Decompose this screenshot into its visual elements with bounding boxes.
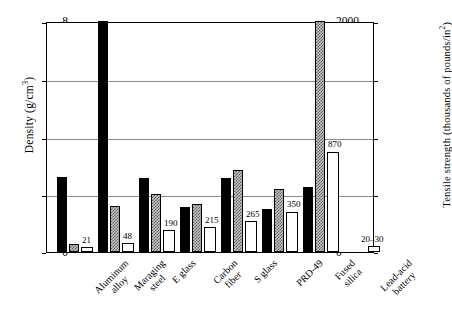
bar-group-carbon-fiber: 215 bbox=[178, 23, 219, 252]
tickmark-left-2 bbox=[42, 196, 46, 197]
bar-group-lead-acid-battery: 20–30 bbox=[342, 23, 383, 252]
left-axis-title: Density (g/cm3) bbox=[21, 35, 35, 195]
bar-density-black-e-glass bbox=[139, 178, 149, 252]
bar-value-label-lead-acid-battery: 20–30 bbox=[361, 235, 384, 244]
bar-tensile-white-prd-49 bbox=[286, 212, 298, 252]
right-axis-title-text: Tensile strength (thousands of pounds/in bbox=[441, 30, 452, 208]
bar-density-black-maraging-steel bbox=[98, 21, 108, 252]
right-axis-title: Tensile strength (thousands of pounds/in… bbox=[438, 0, 452, 240]
bar-tensile-white-carbon-fiber bbox=[204, 227, 216, 252]
x-label-prd-49: PRD-49 bbox=[295, 258, 326, 289]
bar-density-hatched-fused-silica bbox=[315, 21, 325, 252]
x-label-line1: E glass bbox=[170, 258, 198, 286]
left-axis-title-text: Density (g/cm bbox=[23, 85, 35, 153]
bar-tensile-white-e-glass bbox=[163, 230, 175, 252]
bar-group-prd-49: 350 bbox=[260, 23, 301, 252]
x-label-e-glass: E glass bbox=[170, 258, 198, 286]
bar-density-hatched-maraging-steel bbox=[110, 206, 120, 252]
bar-group-e-glass: 190 bbox=[137, 23, 178, 252]
x-label-lead-acid-battery: Lead-acid battery bbox=[379, 258, 422, 301]
tickmark-left-4 bbox=[42, 139, 46, 140]
bar-value-label-maraging-steel: 48 bbox=[123, 232, 132, 241]
bar-tensile-white-s-glass bbox=[245, 221, 257, 252]
bar-density-black-carbon-fiber bbox=[180, 207, 190, 252]
bar-density-hatched-carbon-fiber bbox=[192, 204, 202, 252]
tickmark-left-0 bbox=[42, 253, 46, 254]
bar-tensile-white-lead-acid-battery bbox=[368, 246, 380, 252]
tickmark-left-6 bbox=[42, 81, 46, 82]
x-label-s-glass: S glass bbox=[252, 258, 279, 285]
bar-group-fused-silica: 870 bbox=[301, 23, 342, 252]
bar-value-label-s-glass: 265 bbox=[246, 210, 260, 219]
bar-group-maraging-steel: 48 bbox=[96, 23, 137, 252]
bar-density-hatched-aluminum-alloy bbox=[69, 244, 79, 252]
bar-value-label-carbon-fiber: 215 bbox=[205, 216, 219, 225]
bar-group-s-glass: 265 bbox=[219, 23, 260, 252]
x-label-maraging-steel: Maraging steel bbox=[132, 258, 174, 300]
bar-value-label-aluminum-alloy: 21 bbox=[82, 236, 91, 245]
x-label-line1: PRD-49 bbox=[295, 258, 326, 289]
bar-density-black-aluminum-alloy bbox=[57, 177, 67, 252]
bar-value-label-fused-silica: 870 bbox=[328, 140, 342, 149]
bar-value-label-e-glass: 190 bbox=[164, 219, 178, 228]
x-label-carbon-fiber: Carbon fiber bbox=[212, 258, 248, 294]
bar-value-label-prd-49: 350 bbox=[287, 200, 301, 209]
bar-tensile-white-maraging-steel bbox=[122, 243, 134, 252]
right-axis-title-sup: 2 bbox=[438, 26, 447, 30]
bar-tensile-white-fused-silica bbox=[327, 152, 339, 253]
x-label-aluminum-alloy: Aluminum alloy bbox=[93, 258, 138, 303]
tickmark-right-0 bbox=[374, 253, 378, 254]
right-axis-title-suffix: ) bbox=[441, 22, 452, 26]
bar-density-black-fused-silica bbox=[303, 187, 313, 252]
bar-density-hatched-prd-49 bbox=[274, 189, 284, 253]
plot-area: 21 48 190 215 265 bbox=[46, 22, 374, 253]
x-label-line1: S glass bbox=[252, 258, 279, 285]
bar-density-black-s-glass bbox=[221, 178, 231, 252]
bar-group-aluminum-alloy: 21 bbox=[55, 23, 96, 252]
bar-density-black-prd-49 bbox=[262, 209, 272, 252]
x-label-fused-silica: Fused silica bbox=[333, 258, 365, 290]
bar-density-hatched-s-glass bbox=[233, 170, 243, 252]
bar-density-hatched-e-glass bbox=[151, 194, 161, 252]
tickmark-left-8 bbox=[42, 23, 46, 24]
bar-tensile-white-aluminum-alloy bbox=[81, 247, 93, 253]
